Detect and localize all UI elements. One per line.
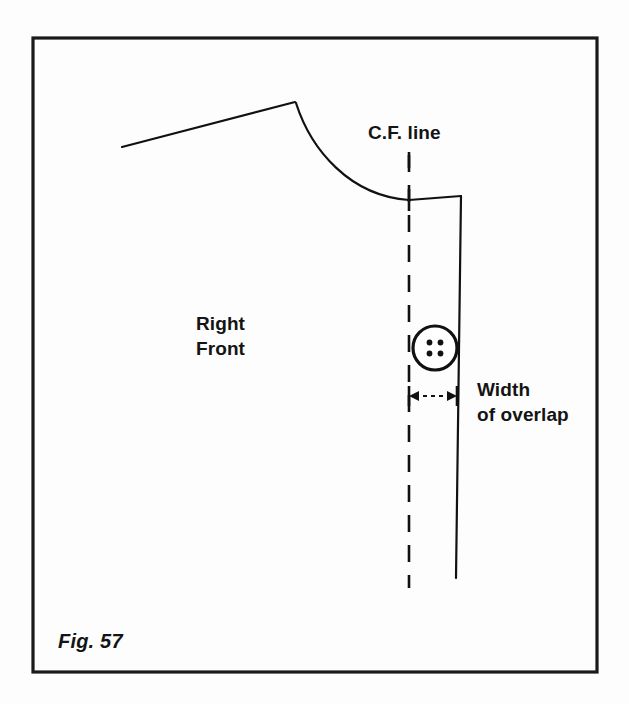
piece-label-line1: Right <box>196 313 246 334</box>
piece-label-line2: Front <box>196 338 246 359</box>
cf-line-label: C.F. line <box>368 122 441 143</box>
figure-caption: Fig. 57 <box>58 630 123 652</box>
button-hole-top-left <box>427 340 433 346</box>
button-outline-circle <box>413 326 457 370</box>
button-hole-bottom-left <box>427 351 433 357</box>
button-hole-top-right <box>438 340 444 346</box>
overlap-label-line1: Width <box>477 379 530 400</box>
button-group <box>413 326 457 370</box>
page-background <box>0 0 629 704</box>
overlap-label-line2: of overlap <box>477 404 569 425</box>
figure-container: C.F. line Right Front Width of overlap F… <box>0 0 629 704</box>
pattern-diagram-canvas: C.F. line Right Front Width of overlap F… <box>0 0 629 704</box>
button-hole-bottom-right <box>438 351 444 357</box>
